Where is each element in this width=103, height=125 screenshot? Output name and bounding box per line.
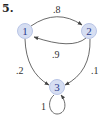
edge-label-1-to-2: .8 [53, 4, 61, 15]
edge-2-to-3 [65, 39, 90, 85]
edge-label-3-self-loop: 1 [41, 101, 46, 112]
node-1-label: 1 [22, 25, 28, 37]
edge-label-2-to-1: .9 [52, 49, 60, 60]
edge-3-self-loop [50, 95, 65, 114]
edge-label-2-to-3: .1 [91, 65, 99, 76]
node-3-label: 3 [54, 81, 60, 93]
edge-label-1-to-3: .2 [16, 65, 24, 76]
edge-1-to-3 [25, 39, 49, 85]
edge-1-to-2 [31, 17, 82, 26]
node-2-label: 2 [86, 25, 92, 37]
node-3: 3 [50, 80, 65, 95]
markov-chain-diagram: 5. .8 .9 .2 .1 1 1 2 3 [0, 0, 103, 125]
node-1: 1 [18, 24, 33, 39]
problem-number: 5. [2, 2, 13, 15]
node-2: 2 [82, 24, 97, 39]
edge-2-to-1 [34, 37, 86, 44]
